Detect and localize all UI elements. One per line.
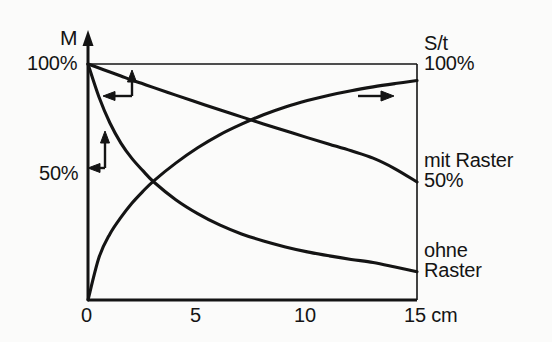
chart-figure: M 100% 50% S/t 100% mit Raster 50% ohne … bbox=[0, 0, 552, 342]
x-tick-label-10: 10 bbox=[294, 305, 316, 325]
secondary-axis-value-100: 100% bbox=[424, 53, 474, 73]
series-label-ohne-raster-line2: Raster bbox=[424, 260, 482, 280]
series-group bbox=[88, 64, 417, 300]
x-tick-label-5: 5 bbox=[190, 305, 201, 325]
annotation-group bbox=[88, 70, 394, 173]
y-tick-label-50: 50% bbox=[39, 163, 78, 183]
series-line-st bbox=[88, 81, 417, 300]
y-axis-arrowhead bbox=[83, 30, 94, 46]
series-label-mit-raster: mit Raster bbox=[424, 150, 513, 170]
series-value-mit-raster: 50% bbox=[424, 170, 463, 190]
arrow-up-left-mid-icon bbox=[88, 131, 110, 173]
arrow-right-icon bbox=[358, 91, 394, 101]
x-tick-label-15: 15 cm bbox=[404, 305, 457, 325]
y-tick-label-100: 100% bbox=[27, 53, 77, 73]
secondary-axis-title-st: S/t bbox=[424, 33, 448, 53]
series-label-ohne-raster-line1: ohne bbox=[424, 240, 468, 260]
y-axis-title: M bbox=[60, 28, 77, 48]
x-tick-label-0: 0 bbox=[81, 305, 92, 325]
